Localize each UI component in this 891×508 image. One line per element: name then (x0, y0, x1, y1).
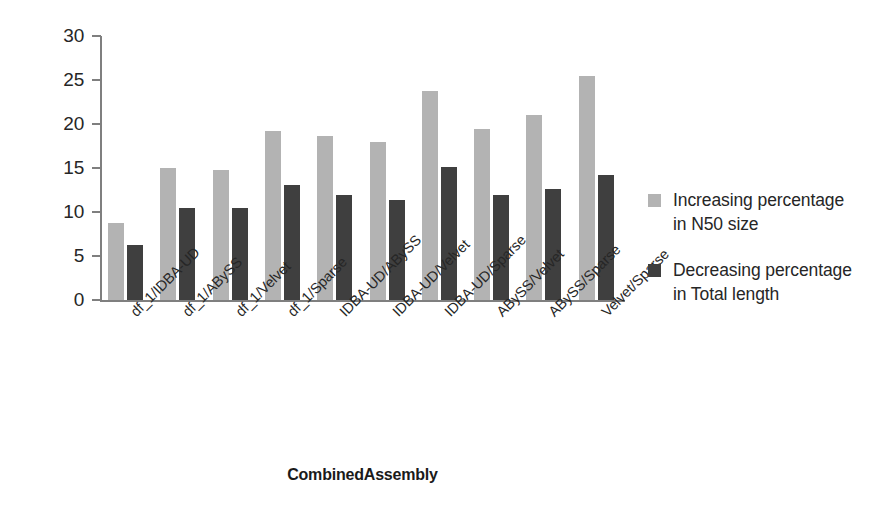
legend-swatch (648, 194, 661, 207)
legend-label-line2: in Total length (673, 282, 888, 306)
y-axis-tick-label-wrap: 30 (32, 26, 84, 45)
bar (284, 185, 300, 300)
bar (441, 167, 457, 300)
y-axis-tick (92, 211, 101, 213)
legend-label-line1: Decreasing percentage (673, 260, 852, 280)
y-axis-tick-label: 20 (38, 114, 84, 133)
y-axis-tick (92, 255, 101, 257)
y-axis-tick (92, 35, 101, 37)
y-axis-tick-label-wrap: 10 (32, 202, 84, 221)
y-axis-tick-label: 0 (38, 290, 84, 309)
y-axis-tick-label-wrap: 5 (32, 246, 84, 265)
bar-group (102, 36, 154, 300)
chart-legend: Increasing percentagein N50 sizeDecreasi… (648, 188, 888, 328)
y-axis-tick-label-wrap: 25 (32, 70, 84, 89)
bar (598, 175, 614, 300)
y-axis-tick-label-wrap: 0 (32, 290, 84, 309)
y-axis-tick (92, 167, 101, 169)
y-axis-tick-label-wrap: 15 (32, 158, 84, 177)
y-axis-tick (92, 123, 101, 125)
bar (336, 195, 352, 300)
legend-swatch (648, 264, 661, 277)
bar-chart: 051015202530 df_1/IDBA-UDdf_1/ABySSdf_1/… (0, 0, 891, 508)
legend-label-line2: in N50 size (673, 212, 888, 236)
y-axis-tick-label: 15 (38, 158, 84, 177)
bar (108, 223, 124, 300)
legend-item: Decreasing percentagein Total length (648, 258, 888, 306)
y-axis-tick-label: 5 (38, 246, 84, 265)
legend-label-line1: Increasing percentage (673, 190, 844, 210)
x-axis-title: CombinedAssembly (100, 466, 625, 484)
y-axis-tick-label: 10 (38, 202, 84, 221)
legend-item: Increasing percentagein N50 size (648, 188, 888, 236)
y-axis-tick-label: 30 (38, 26, 84, 45)
bar (545, 189, 561, 300)
y-axis-tick-label-wrap: 20 (32, 114, 84, 133)
bar (127, 245, 143, 300)
y-axis-tick-label: 25 (38, 70, 84, 89)
y-axis-tick (92, 79, 101, 81)
